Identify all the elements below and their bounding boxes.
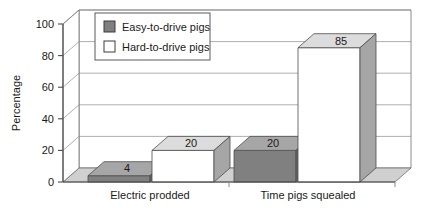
bar-value-label: 85 <box>335 35 347 47</box>
bar-front-face <box>298 48 360 182</box>
bar-front-face <box>234 150 296 182</box>
bar-front-face <box>88 176 150 182</box>
legend-swatch-icon <box>104 41 115 52</box>
y-axis: 100 80 60 40 20 0 Percentage <box>10 18 63 188</box>
chart-canvas: 100 80 60 40 20 0 Percentage 4 20 <box>0 0 432 215</box>
bar-hard-electric[interactable]: 20 <box>152 136 230 182</box>
y-tick-label-40: 40 <box>42 113 54 125</box>
y-axis-title: Percentage <box>10 75 22 131</box>
x-axis: Electric prodded Time pigs squealed <box>63 182 395 201</box>
legend-swatch-icon <box>104 21 115 32</box>
left-wall <box>63 10 79 182</box>
bar-front-face <box>152 150 214 182</box>
y-tick-label-100: 100 <box>36 18 54 30</box>
legend-item-label: Hard-to-drive pigs <box>122 41 210 53</box>
x-category-label-0: Electric prodded <box>110 189 190 201</box>
bar-value-label: 20 <box>185 137 197 149</box>
bar-side-face <box>360 34 376 182</box>
y-tick-label-60: 60 <box>42 81 54 93</box>
legend[interactable]: Easy-to-drive pigs Hard-to-drive pigs <box>95 13 211 60</box>
x-category-label-1: Time pigs squealed <box>261 189 356 201</box>
bar-value-label: 20 <box>267 137 279 149</box>
y-tick-label-80: 80 <box>42 50 54 62</box>
legend-item-label: Easy-to-drive pigs <box>122 21 211 33</box>
bar-chart-3d: 100 80 60 40 20 0 Percentage 4 20 <box>0 0 432 215</box>
y-tick-label-0: 0 <box>48 176 54 188</box>
bar-hard-squealed[interactable]: 85 <box>298 34 376 182</box>
bar-value-label: 4 <box>124 162 130 174</box>
y-tick-label-20: 20 <box>42 144 54 156</box>
